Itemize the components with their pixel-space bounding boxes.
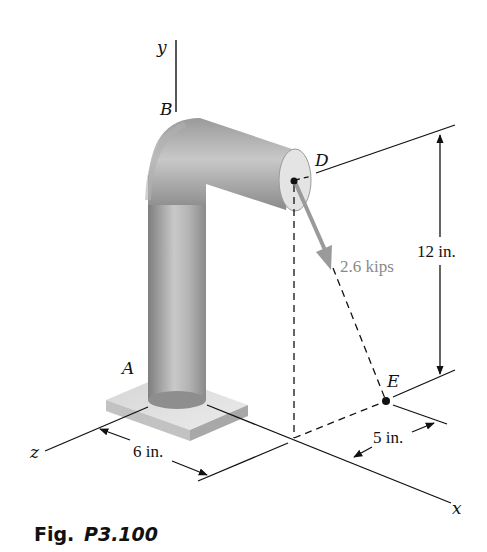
dim-5in-left bbox=[354, 447, 372, 457]
dim-6in-ext bbox=[198, 443, 288, 481]
dim-5in-right bbox=[412, 423, 434, 432]
label-point-e: E bbox=[386, 371, 400, 391]
dim-5in-label: 5 in. bbox=[373, 428, 403, 447]
dim-12in-label: 12 in. bbox=[417, 242, 456, 261]
point-d-dot bbox=[291, 178, 298, 185]
dim-6in-left bbox=[100, 429, 130, 440]
figure-caption-prefix: Fig. bbox=[34, 523, 74, 545]
point-e-dot bbox=[382, 397, 390, 405]
d-extension-line bbox=[316, 125, 455, 173]
force-label: 2.6 kips bbox=[340, 257, 394, 276]
label-point-b: B bbox=[159, 99, 173, 119]
force-arrow bbox=[295, 182, 332, 270]
force-line-of-action bbox=[333, 268, 386, 401]
label-y-axis: y bbox=[156, 37, 167, 57]
figure-caption-number: P3.100 bbox=[84, 523, 158, 545]
dim-6in-right bbox=[172, 461, 207, 475]
label-point-a: A bbox=[120, 358, 134, 378]
pipe-vertical bbox=[148, 175, 206, 409]
e-extension-line-lower bbox=[393, 405, 447, 424]
x-axis-line bbox=[207, 405, 451, 503]
label-point-d: D bbox=[314, 150, 329, 170]
pipe-elbow bbox=[148, 118, 295, 210]
label-x-axis: x bbox=[452, 498, 462, 518]
e-extension-line-upper bbox=[393, 370, 455, 397]
dim-6in-label: 6 in. bbox=[133, 442, 163, 461]
label-z-axis: z bbox=[29, 442, 40, 462]
pipe-force-diagram: y B D A E z x 12 in. 6 in. 5 in. 2.6 kip… bbox=[0, 0, 487, 552]
